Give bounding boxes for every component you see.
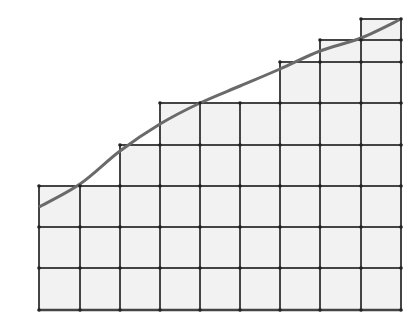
vertex-dot xyxy=(78,225,82,229)
vertex-dot xyxy=(238,143,242,147)
vertex-dot xyxy=(118,266,122,270)
vertex-dot xyxy=(359,143,363,147)
column-fill xyxy=(160,103,200,310)
vertex-dot xyxy=(318,60,322,64)
vertex-dot xyxy=(78,184,82,188)
vertex-dot xyxy=(78,266,82,270)
vertex-dot xyxy=(158,225,162,229)
vertex-dot xyxy=(359,266,363,270)
vertex-dot xyxy=(318,143,322,147)
vertex-dot xyxy=(399,308,403,312)
vertex-dot xyxy=(278,266,282,270)
vertex-dot xyxy=(158,101,162,105)
vertex-dot xyxy=(158,143,162,147)
vertex-dot xyxy=(238,101,242,105)
vertex-dot xyxy=(399,225,403,229)
vertex-dot xyxy=(198,101,202,105)
vertex-dot xyxy=(318,38,322,42)
column-fill xyxy=(200,103,240,310)
vertex-dot xyxy=(359,184,363,188)
vertex-dot xyxy=(359,308,363,312)
vertex-dot xyxy=(278,143,282,147)
vertex-dot xyxy=(158,266,162,270)
vertex-dot xyxy=(158,184,162,188)
column-fill xyxy=(320,40,361,310)
vertex-dot xyxy=(278,225,282,229)
vertex-dot xyxy=(118,225,122,229)
vertex-dot xyxy=(278,184,282,188)
vertex-dot xyxy=(37,184,41,188)
vertex-dot xyxy=(198,143,202,147)
vertex-dot xyxy=(318,266,322,270)
vertex-dot xyxy=(238,266,242,270)
vertex-dot xyxy=(318,308,322,312)
vertex-dot xyxy=(399,38,403,42)
vertex-dot xyxy=(318,184,322,188)
diagram-canvas xyxy=(0,0,418,328)
vertex-dot xyxy=(359,60,363,64)
vertex-dot xyxy=(238,184,242,188)
vertex-dot xyxy=(399,266,403,270)
vertex-dot xyxy=(359,101,363,105)
vertex-dot xyxy=(118,143,122,147)
vertex-dot xyxy=(158,308,162,312)
vertex-dot xyxy=(278,60,282,64)
vertex-dot xyxy=(37,266,41,270)
vertex-dot xyxy=(399,101,403,105)
vertex-dot xyxy=(359,225,363,229)
vertex-dot xyxy=(399,184,403,188)
vertex-dot xyxy=(198,184,202,188)
vertex-dot xyxy=(238,308,242,312)
vertex-dot xyxy=(118,184,122,188)
vertex-dot xyxy=(278,308,282,312)
vertex-dot xyxy=(399,143,403,147)
vertex-dot xyxy=(238,225,242,229)
vertex-dot xyxy=(198,266,202,270)
vertex-dot xyxy=(359,38,363,42)
vertex-dot xyxy=(78,308,82,312)
vertex-dot xyxy=(118,308,122,312)
vertex-dot xyxy=(318,101,322,105)
vertex-dot xyxy=(359,17,363,21)
vertex-dot xyxy=(37,225,41,229)
vertex-dot xyxy=(399,60,403,64)
vertex-dot xyxy=(278,101,282,105)
vertex-dot xyxy=(37,308,41,312)
riemann-grid-figure xyxy=(0,0,418,328)
vertex-dot xyxy=(198,225,202,229)
vertex-dot xyxy=(198,308,202,312)
column-fill xyxy=(240,103,280,310)
vertex-dot xyxy=(318,225,322,229)
column-fill xyxy=(80,186,120,310)
vertex-dot xyxy=(399,17,403,21)
